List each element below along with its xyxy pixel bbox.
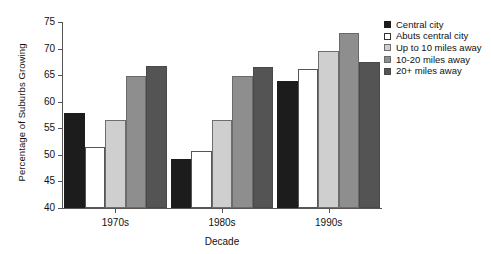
legend-item-label: Central city bbox=[396, 20, 444, 30]
legend-swatch-icon bbox=[384, 56, 391, 63]
bar bbox=[277, 81, 298, 208]
y-tick-mark bbox=[58, 22, 62, 23]
legend-item: Central city bbox=[384, 19, 482, 31]
legend-item-label: 10-20 miles away bbox=[396, 55, 470, 65]
bar bbox=[105, 120, 126, 208]
y-tick-mark bbox=[58, 128, 62, 129]
bar bbox=[318, 51, 339, 208]
legend-swatch-icon bbox=[384, 68, 391, 75]
y-tick-mark bbox=[58, 75, 62, 76]
legend-item: Up to 10 miles away bbox=[384, 42, 482, 54]
y-tick-label: 75 bbox=[29, 17, 55, 27]
x-tick-mark bbox=[329, 209, 330, 213]
y-tick-label: 40 bbox=[29, 203, 55, 213]
bar bbox=[191, 151, 212, 208]
x-tick-mark bbox=[115, 209, 116, 213]
y-tick-mark bbox=[58, 49, 62, 50]
x-tick-label: 1990s bbox=[299, 217, 359, 228]
bar bbox=[232, 76, 253, 208]
y-tick-label: 70 bbox=[29, 44, 55, 54]
x-tick-label: 1980s bbox=[192, 217, 252, 228]
legend-item: 10-20 miles away bbox=[384, 54, 482, 66]
bar bbox=[146, 66, 167, 208]
legend-item-label: 20+ miles away bbox=[396, 66, 462, 76]
bar bbox=[339, 33, 360, 208]
bar bbox=[298, 69, 319, 208]
y-tick-label: 50 bbox=[29, 150, 55, 160]
bar bbox=[171, 159, 192, 208]
y-axis-title: Percentage of Suburbs Growing bbox=[16, 18, 27, 208]
y-tick-label: 60 bbox=[29, 97, 55, 107]
legend-item: 20+ miles away bbox=[384, 65, 482, 77]
legend-swatch-icon bbox=[384, 33, 391, 40]
y-axis-line bbox=[62, 22, 63, 208]
bar bbox=[85, 147, 106, 208]
bar bbox=[64, 113, 85, 208]
chart-legend: Central cityAbuts central cityUp to 10 m… bbox=[384, 19, 482, 77]
y-tick-mark bbox=[58, 208, 62, 209]
bar bbox=[253, 67, 274, 208]
legend-item-label: Abuts central city bbox=[396, 31, 468, 41]
y-tick-mark bbox=[58, 155, 62, 156]
y-tick-mark bbox=[58, 181, 62, 182]
y-tick-label: 45 bbox=[29, 176, 55, 186]
x-tick-label: 1970s bbox=[85, 217, 145, 228]
y-tick-mark bbox=[58, 102, 62, 103]
legend-item: Abuts central city bbox=[384, 31, 482, 43]
legend-swatch-icon bbox=[384, 21, 391, 28]
bar bbox=[126, 76, 147, 208]
x-axis-title: Decade bbox=[62, 236, 382, 247]
bar-chart: Percentage of Suburbs Growing 4045505560… bbox=[0, 0, 491, 254]
y-tick-label: 55 bbox=[29, 123, 55, 133]
bar bbox=[359, 62, 380, 208]
legend-swatch-icon bbox=[384, 44, 391, 51]
y-tick-label: 65 bbox=[29, 70, 55, 80]
x-tick-mark bbox=[222, 209, 223, 213]
bar bbox=[212, 120, 233, 208]
legend-item-label: Up to 10 miles away bbox=[396, 43, 482, 53]
